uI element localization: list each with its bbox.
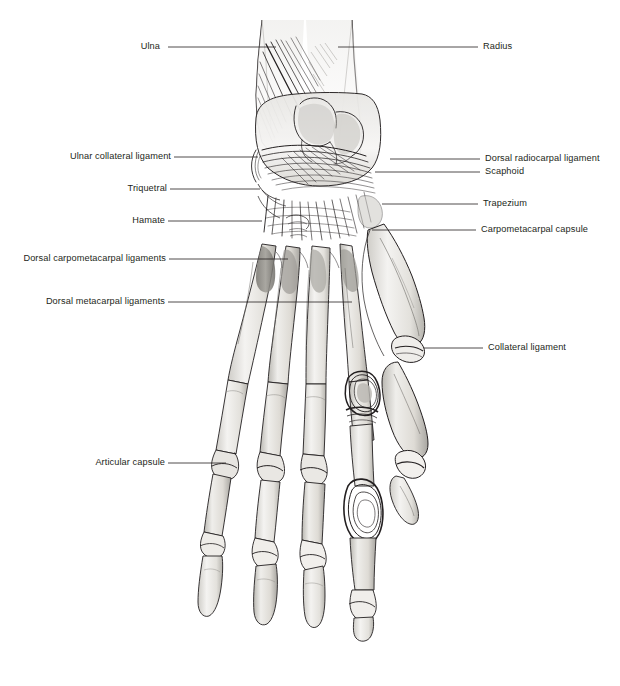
- label-carpometacarpal-capsule: Carpometacarpal capsule: [481, 224, 588, 234]
- label-dorsal-metacarpal-ligaments: Dorsal metacarpal ligaments: [46, 296, 165, 306]
- label-triquetral: Triquetral: [128, 183, 167, 193]
- label-dorsal-carpometacarpal-ligaments: Dorsal carpometacarpal ligaments: [23, 253, 166, 263]
- finger-index: [344, 371, 383, 641]
- label-dorsal-radiocarpal-ligament: Dorsal radiocarpal ligament: [485, 153, 600, 163]
- label-ulnar-collateral-ligament: Ulnar collateral ligament: [70, 151, 171, 161]
- label-radius: Radius: [483, 41, 512, 51]
- anatomical-illustration-hand-dorsal: Ulna Radius Ulnar collateral ligament Do…: [0, 0, 620, 686]
- label-hamate: Hamate: [132, 215, 165, 225]
- carpometacarpal-ligament-zone: [264, 192, 382, 240]
- label-scaphoid: Scaphoid: [485, 166, 524, 176]
- label-articular-capsule: Articular capsule: [95, 457, 165, 467]
- finger-little: [198, 380, 248, 616]
- metacarpals-group: [228, 244, 368, 384]
- label-trapezium: Trapezium: [483, 198, 527, 208]
- finger-ring: [252, 382, 288, 625]
- finger-middle: [300, 384, 327, 628]
- label-ulna: Ulna: [141, 41, 160, 51]
- label-collateral-ligament: Collateral ligament: [488, 342, 566, 352]
